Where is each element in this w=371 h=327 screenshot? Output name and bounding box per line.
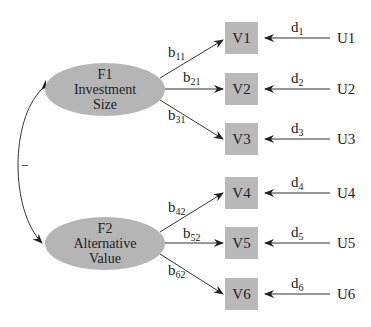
loading-label-b62: b62 bbox=[168, 263, 186, 280]
variable-v5: V5 bbox=[225, 227, 258, 259]
factor-f2: F2 Alternative Value bbox=[45, 217, 165, 270]
factor-f1-name-1: Investment bbox=[74, 82, 136, 97]
variable-v4: V4 bbox=[225, 177, 258, 209]
factor-f2-name-1: Alternative bbox=[74, 236, 137, 251]
unique-label-u3: U3 bbox=[337, 132, 355, 147]
factor-f2-id: F2 bbox=[98, 221, 113, 236]
correlation-arrow bbox=[18, 89, 42, 243]
unique-label-u1: U1 bbox=[337, 31, 355, 46]
error-label-d1: d1 bbox=[291, 20, 304, 37]
loading-label-b31: b31 bbox=[168, 108, 186, 125]
loading-label-b42: b42 bbox=[168, 200, 186, 217]
error-label-d6: d6 bbox=[291, 276, 304, 293]
factor-f2-name-2: Value bbox=[89, 251, 121, 266]
factor-f1-name-2: Size bbox=[93, 97, 117, 112]
loading-label-b21: b21 bbox=[183, 70, 201, 87]
error-label-d4: d4 bbox=[291, 175, 304, 192]
variable-v1: V1 bbox=[225, 22, 258, 54]
factor-f1-id: F1 bbox=[98, 67, 113, 82]
correlation-label bbox=[22, 165, 28, 166]
loading-label-b52: b52 bbox=[183, 226, 201, 243]
error-label-d5: d5 bbox=[291, 225, 304, 242]
path-diagram-lines bbox=[0, 0, 371, 327]
unique-label-u6: U6 bbox=[337, 287, 355, 302]
variable-v6: V6 bbox=[225, 278, 258, 310]
error-label-d3: d3 bbox=[291, 121, 304, 138]
variable-v3: V3 bbox=[225, 123, 258, 155]
factor-f1: F1 Investment Size bbox=[45, 63, 165, 116]
unique-label-u2: U2 bbox=[337, 82, 355, 97]
variable-v2: V2 bbox=[225, 73, 258, 105]
unique-label-u4: U4 bbox=[337, 186, 355, 201]
loading-label-b11: b11 bbox=[168, 45, 185, 62]
unique-label-u5: U5 bbox=[337, 236, 355, 251]
error-label-d2: d2 bbox=[291, 71, 304, 88]
